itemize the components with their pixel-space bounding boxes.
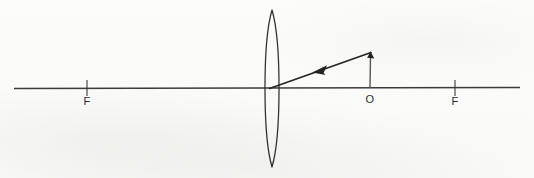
object-stem xyxy=(370,55,371,88)
diagram-canvas: F F O xyxy=(0,0,534,178)
lens-ray-diagram: F F O xyxy=(0,0,534,178)
focal-point-left-label: F xyxy=(84,95,91,107)
optical-axis xyxy=(14,88,520,89)
object-point-label: O xyxy=(366,93,375,105)
focal-point-right-label: F xyxy=(452,95,459,107)
ray-direction-arrowhead-icon xyxy=(312,65,327,75)
